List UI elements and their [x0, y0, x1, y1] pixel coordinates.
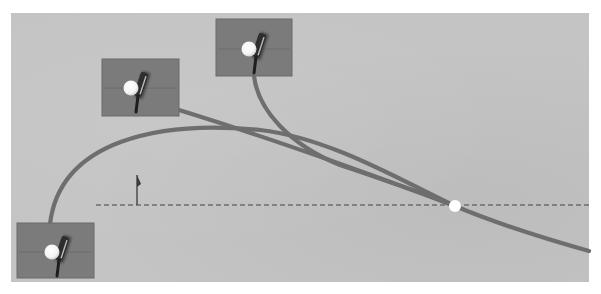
- inset-address-left: [17, 223, 94, 278]
- golf-ball: [242, 42, 257, 57]
- inset-address-middle: [102, 59, 179, 116]
- path-from-left: [50, 128, 589, 251]
- golf-ball: [124, 81, 139, 96]
- inset-address-top: [216, 19, 292, 76]
- golf-ball-flight-diagram: [0, 0, 601, 294]
- flag-icon: [137, 175, 141, 205]
- address-insets: [17, 19, 292, 278]
- path-from-top: [254, 76, 455, 206]
- golf-ball: [45, 245, 60, 260]
- target-ball: [449, 200, 461, 212]
